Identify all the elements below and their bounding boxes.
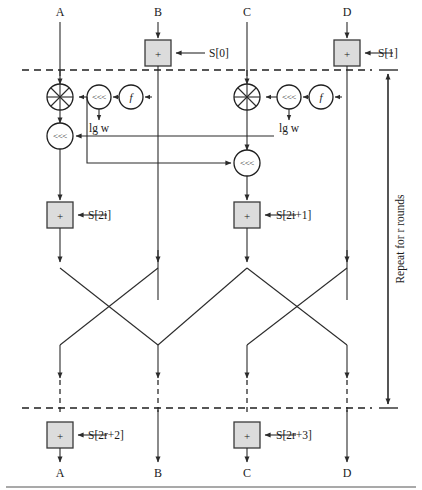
output-label-a: A [56,466,65,480]
rotate-glyph-right-main: <<< [240,158,254,168]
rotate-glyph-right-top: <<< [282,92,296,102]
rotate-glyph-left-main: <<< [53,131,67,141]
rotate-amount-label-left: lg w [89,122,110,135]
output-label-c: C [243,466,251,480]
input-label-a: A [56,5,65,19]
key-label-s2r3: S[2r+3] [276,429,312,441]
input-label-c: C [243,5,251,19]
rotate-amount-label-right: lg w [279,122,300,135]
input-label-d: D [343,5,352,19]
repeat-annotation-label: Repeat for r rounds [394,194,407,284]
add-box-s2r3-glyph: + [244,430,250,442]
key-label-s2i: S[2i] [88,209,111,221]
key-label-s2r2: S[2r+2] [88,429,124,441]
rc6-round-diagram: A B C D + S[0] + S[1] f [0,0,422,490]
diagram-canvas: A B C D + S[0] + S[1] f [0,0,422,490]
add-box-s2r2-glyph: + [57,430,63,442]
rotate-glyph-left-top: <<< [92,92,106,102]
add-box-s0-glyph: + [155,48,161,60]
key-label-s1: S[1] [378,47,398,59]
key-label-s0: S[0] [209,47,229,59]
key-label-s2i1: S[2i+1] [276,209,311,221]
add-box-s2i1-glyph: + [244,210,250,222]
input-label-b: B [154,5,162,19]
add-box-s2i-glyph: + [57,210,63,222]
output-label-d: D [343,466,352,480]
add-box-s1-glyph: + [344,48,350,60]
output-label-b: B [154,466,162,480]
